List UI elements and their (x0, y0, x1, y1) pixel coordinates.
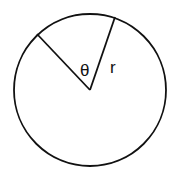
angle-label-theta: θ (80, 61, 89, 80)
diagram-canvas: θ r (0, 0, 174, 180)
radius-label-r: r (110, 58, 116, 77)
circle-sector-diagram: θ r (0, 0, 174, 180)
radius-line-right (90, 17, 115, 90)
